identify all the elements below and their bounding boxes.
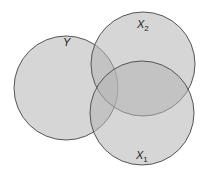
venn-diagram: YX2X1 bbox=[0, 0, 207, 175]
label-y: Y bbox=[63, 36, 71, 48]
